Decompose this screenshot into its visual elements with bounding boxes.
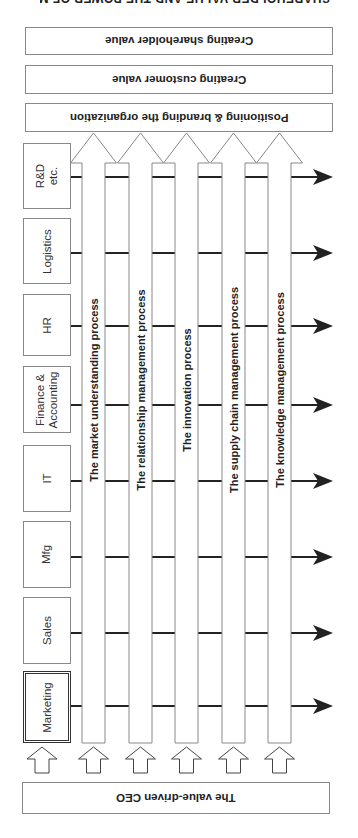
up-arrow-icon xyxy=(172,747,202,773)
process-label: The knowledge management process xyxy=(274,292,286,488)
ceo-box: The value-driven CEO xyxy=(22,782,330,814)
up-arrow-icon xyxy=(219,747,249,773)
process-label-wrap: The innovation process xyxy=(175,240,198,540)
process-label: The relationship management process xyxy=(135,289,147,490)
process-label-wrap: The market understanding process xyxy=(82,240,105,540)
process-label-wrap: The supply chain management process xyxy=(222,240,245,540)
up-arrow-icon xyxy=(79,747,109,773)
process-label-wrap: The relationship management process xyxy=(129,240,152,540)
up-arrow-icon xyxy=(27,747,57,773)
up-arrow-icon xyxy=(126,747,156,773)
process-label: The supply chain management process xyxy=(228,287,240,493)
up-arrow-icon xyxy=(265,747,295,773)
process-label: The market understanding process xyxy=(88,298,100,481)
process-label: The innovation process xyxy=(181,328,193,451)
process-label-wrap: The knowledge management process xyxy=(268,240,291,540)
ceo-label: The value-driven CEO xyxy=(116,792,236,804)
